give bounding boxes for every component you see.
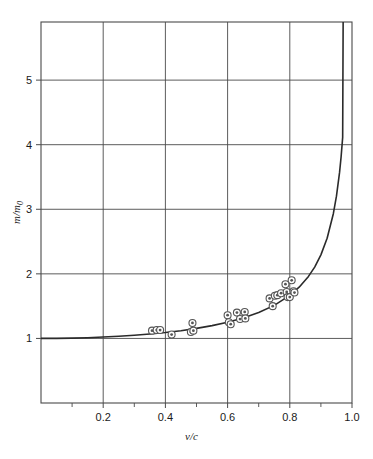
data-point-center bbox=[236, 311, 239, 314]
x-axis-title: v/c bbox=[185, 430, 198, 442]
data-point-center bbox=[284, 283, 287, 286]
data-point-center bbox=[271, 305, 274, 308]
y-axis-title: m/m0 bbox=[10, 201, 25, 224]
data-point-center bbox=[293, 291, 296, 294]
data-point-center bbox=[191, 322, 194, 325]
ytick-label-4: 5 bbox=[26, 74, 32, 86]
data-point-center bbox=[226, 314, 229, 317]
data-point-center bbox=[170, 333, 173, 336]
ytick-label-0: 1 bbox=[26, 332, 32, 344]
xtick-label-0: 0.2 bbox=[96, 411, 111, 423]
data-point-center bbox=[285, 291, 288, 294]
ytick-label-1: 2 bbox=[26, 268, 32, 280]
data-point-center bbox=[239, 318, 242, 321]
xtick-label-1: 0.4 bbox=[158, 411, 173, 423]
data-point-center bbox=[244, 317, 247, 320]
xtick-label-4: 1.0 bbox=[344, 411, 359, 423]
data-point-center bbox=[280, 292, 283, 295]
ytick-label-2: 3 bbox=[26, 203, 32, 215]
data-point-center bbox=[229, 323, 232, 326]
data-point-center bbox=[243, 311, 246, 314]
data-point-center bbox=[288, 296, 291, 299]
chart-figure: 0.20.40.60.81.012345v/cm/m0 bbox=[0, 0, 373, 459]
xtick-label-3: 0.8 bbox=[282, 411, 297, 423]
ytick-label-3: 4 bbox=[26, 139, 32, 151]
y-axis-title-text: m/m0 bbox=[10, 201, 25, 224]
data-point-center bbox=[268, 297, 271, 300]
data-point-center bbox=[192, 329, 195, 332]
data-point-center bbox=[159, 329, 162, 332]
relativistic-mass-chart: 0.20.40.60.81.012345v/cm/m0 bbox=[0, 0, 373, 459]
plot-frame bbox=[41, 22, 352, 403]
data-point-center bbox=[290, 279, 293, 282]
xtick-label-2: 0.6 bbox=[220, 411, 235, 423]
